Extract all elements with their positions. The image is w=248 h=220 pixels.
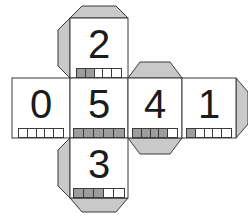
flap-one-right-shape — [236, 78, 248, 138]
flap-four-bottom-shape — [128, 138, 182, 154]
pip — [19, 129, 28, 137]
face-digit-one: 1 — [198, 84, 220, 124]
pip — [28, 129, 37, 137]
face-digit-zero: 0 — [30, 84, 52, 124]
pip-bar-one — [186, 128, 232, 138]
face-digit-five: 5 — [88, 84, 110, 124]
pip — [84, 129, 94, 137]
pip — [95, 69, 104, 77]
cube-net-figure: 0 2 5 — [0, 0, 248, 220]
face-digit-two: 2 — [88, 24, 110, 64]
pip-bar-zero — [18, 128, 64, 138]
pip-bar-three — [73, 188, 125, 198]
flap-two-top-shape — [70, 6, 128, 18]
pip — [104, 189, 114, 197]
pip-bar-four — [132, 128, 178, 138]
cube-face-zero[interactable]: 0 — [12, 78, 70, 138]
pip — [37, 129, 46, 137]
face-digit-three: 3 — [88, 144, 110, 184]
pip — [151, 129, 160, 137]
flap-three-bottom-shape — [70, 198, 128, 212]
pip-bar-five — [73, 128, 125, 138]
pip — [84, 189, 94, 197]
flap-three-left-shape — [58, 138, 70, 198]
flap-two-left-shape — [58, 18, 70, 78]
pip — [187, 129, 196, 137]
pip — [142, 129, 151, 137]
pip — [74, 129, 84, 137]
cube-face-one[interactable]: 1 — [182, 78, 236, 138]
cube-face-five[interactable]: 5 — [70, 78, 128, 138]
pip — [114, 189, 124, 197]
pip — [103, 69, 112, 77]
pip — [112, 69, 121, 77]
pip-bar-two — [76, 68, 122, 78]
cube-face-three[interactable]: 3 — [70, 138, 128, 198]
face-digit-four: 4 — [144, 84, 166, 124]
pip — [45, 129, 54, 137]
pip — [159, 129, 168, 137]
pip — [133, 129, 142, 137]
pip — [94, 129, 104, 137]
pip — [213, 129, 222, 137]
pip — [74, 189, 84, 197]
pip — [94, 189, 104, 197]
cube-face-two[interactable]: 2 — [70, 18, 128, 78]
cube-face-four[interactable]: 4 — [128, 78, 182, 138]
pip — [114, 129, 124, 137]
pip — [196, 129, 205, 137]
pip — [168, 129, 177, 137]
pip — [222, 129, 231, 137]
pip — [86, 69, 95, 77]
pip — [104, 129, 114, 137]
pip — [77, 69, 86, 77]
pip — [54, 129, 63, 137]
flap-four-top-shape — [128, 62, 182, 78]
pip — [205, 129, 214, 137]
